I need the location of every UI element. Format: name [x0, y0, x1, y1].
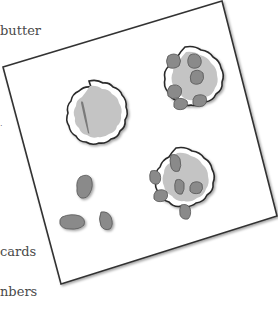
clump	[167, 85, 181, 99]
illustration	[0, 0, 278, 309]
clump	[188, 54, 202, 68]
loose-clump	[60, 215, 85, 229]
clump	[154, 190, 168, 202]
clump	[150, 170, 161, 184]
clump	[193, 95, 207, 107]
card	[3, 1, 277, 284]
clump	[170, 155, 181, 172]
clump	[180, 204, 191, 219]
clump	[175, 179, 185, 194]
clump	[190, 182, 203, 194]
clump	[174, 98, 188, 109]
clump	[190, 70, 203, 84]
clump	[167, 54, 181, 68]
